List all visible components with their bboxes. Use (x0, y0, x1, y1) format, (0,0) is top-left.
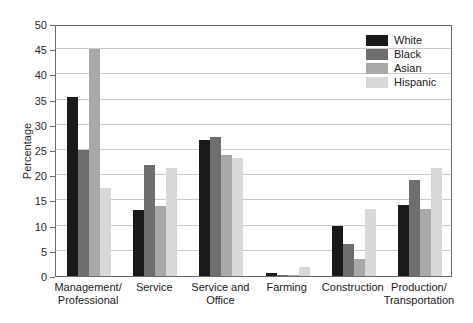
bar (354, 259, 365, 276)
bar (133, 210, 144, 276)
y-tick-label: 10 (3, 222, 47, 232)
legend-label: Hispanic (394, 77, 436, 88)
legend-swatch-icon (366, 49, 388, 60)
bar (398, 205, 409, 276)
legend-item: Hispanic (366, 76, 436, 89)
y-tick-label: 45 (3, 45, 47, 55)
bar (332, 226, 343, 276)
legend-label: Black (394, 49, 421, 60)
bar (210, 137, 221, 276)
legend-swatch-icon (366, 63, 388, 74)
bar (89, 49, 100, 276)
gridline (56, 199, 451, 200)
gridline (56, 174, 451, 175)
bar (365, 209, 376, 276)
y-tick-label: 30 (3, 121, 47, 131)
bar (343, 244, 354, 276)
y-tick-label: 35 (3, 96, 47, 106)
legend-label: Asian (394, 63, 422, 74)
bar (100, 188, 111, 276)
bar (431, 168, 442, 276)
y-tick-label: 40 (3, 70, 47, 80)
gridline (56, 149, 451, 150)
bar (299, 267, 310, 276)
legend-swatch-icon (366, 77, 388, 88)
legend-item: White (366, 34, 436, 47)
y-tick-label: 50 (3, 20, 47, 30)
gridline (56, 225, 451, 226)
bar (277, 275, 288, 277)
legend: WhiteBlackAsianHispanic (366, 34, 436, 90)
legend-item: Black (366, 48, 436, 61)
bar (409, 180, 420, 276)
gridline (56, 99, 451, 100)
x-tick-label: Production/ Transportation (364, 281, 473, 307)
bar (144, 165, 155, 276)
gridline (56, 250, 451, 251)
y-tick-label: 5 (3, 247, 47, 257)
bar (288, 275, 299, 277)
y-tick-label: 20 (3, 171, 47, 181)
y-tick-label: 15 (3, 196, 47, 206)
bar (266, 273, 277, 276)
bar (166, 168, 177, 276)
bar (221, 155, 232, 276)
bar (199, 140, 210, 276)
bar (67, 97, 78, 276)
bar (420, 209, 431, 276)
bar (232, 158, 243, 276)
legend-swatch-icon (366, 35, 388, 46)
bar (78, 150, 89, 276)
y-tick-mark (50, 277, 55, 278)
bar-chart: Percentage 05101520253035404550 Manageme… (0, 0, 473, 323)
gridline (56, 124, 451, 125)
legend-label: White (394, 35, 422, 46)
legend-item: Asian (366, 62, 436, 75)
bar (155, 206, 166, 276)
y-tick-label: 25 (3, 146, 47, 156)
